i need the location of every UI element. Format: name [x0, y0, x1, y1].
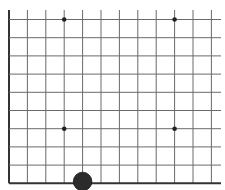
star-point-icon	[172, 126, 177, 131]
star-point-icon	[62, 17, 67, 22]
star-point-icon	[62, 126, 67, 131]
stones	[73, 172, 92, 190]
go-board[interactable]	[0, 0, 225, 190]
star-point-icon	[172, 17, 177, 22]
black-stone-icon[interactable]	[73, 172, 92, 190]
go-board-grid[interactable]	[0, 0, 225, 190]
grid-lines	[9, 10, 221, 183]
